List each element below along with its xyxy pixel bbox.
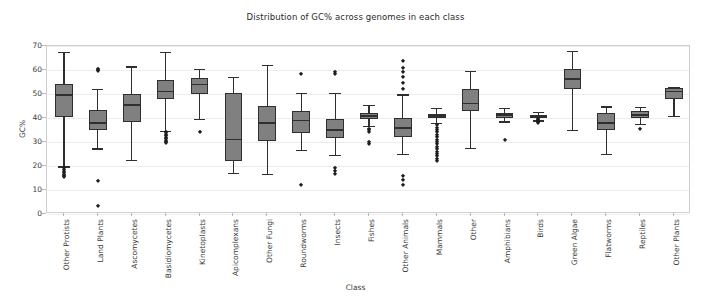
cap-upper [567, 51, 578, 52]
x-tick-mark [334, 213, 335, 216]
cap-upper [533, 112, 544, 113]
x-tick-label-other-protists: Other Protists [61, 219, 70, 270]
median-line [55, 94, 73, 96]
median-line [462, 103, 480, 105]
whisker-lower [233, 161, 234, 173]
y-tick-label-0: 0 [2, 209, 42, 218]
boxplot-insects[interactable] [318, 46, 352, 214]
boxplot-other-protists[interactable] [47, 46, 81, 214]
median-line [225, 139, 243, 141]
x-tick-mark [605, 213, 606, 216]
boxplot-ascomycetes[interactable] [115, 46, 149, 214]
x-tick-label-land-plants: Land Plants [95, 219, 104, 262]
boxplot-land-plants[interactable] [81, 46, 115, 214]
boxplot-amphibians[interactable] [488, 46, 522, 214]
whisker-upper [131, 66, 132, 93]
x-tick-mark [199, 213, 200, 216]
box-iqr[interactable] [55, 84, 73, 116]
box-iqr[interactable] [462, 89, 480, 111]
cap-upper [363, 105, 374, 106]
x-tick-label-green-algae: Green Algae [570, 219, 579, 265]
outlier-point [96, 179, 101, 184]
boxplot-birds[interactable] [522, 46, 556, 214]
median-line [496, 114, 514, 116]
box-iqr[interactable] [292, 111, 310, 133]
box-iqr[interactable] [225, 93, 243, 160]
chart-title: Distribution of GC% across genomes in ea… [0, 12, 711, 22]
y-tick-mark [42, 117, 46, 118]
median-line [360, 115, 378, 117]
outlier-point [435, 159, 440, 164]
cap-upper [296, 93, 307, 94]
outlier-point [299, 182, 304, 187]
boxplot-reptiles[interactable] [623, 46, 657, 214]
y-tick-label-30: 30 [2, 137, 42, 146]
median-line [157, 91, 175, 93]
outlier-point [502, 137, 507, 142]
y-tick-label-10: 10 [2, 185, 42, 194]
whisker-lower [63, 117, 64, 167]
boxplot-basidiomycetes[interactable] [149, 46, 183, 214]
median-line [564, 78, 582, 80]
cap-lower [329, 155, 340, 156]
boxplot-kinetoplasts[interactable] [183, 46, 217, 214]
x-tick-mark [673, 213, 674, 216]
outlier-point [367, 142, 372, 147]
median-line [292, 120, 310, 122]
cap-upper [228, 77, 239, 78]
x-tick-label-roundworms: Roundworms [299, 219, 308, 268]
cap-lower [465, 148, 476, 149]
boxplot-other-plants[interactable] [657, 46, 691, 214]
whisker-lower [572, 89, 573, 130]
cap-lower [601, 154, 612, 155]
whisker-lower [606, 130, 607, 154]
boxplot-other[interactable] [454, 46, 488, 214]
x-tick-label-reptiles: Reptiles [638, 219, 647, 249]
boxplot-other-fungi[interactable] [250, 46, 284, 214]
boxplot-roundworms[interactable] [284, 46, 318, 214]
median-line [258, 122, 276, 124]
cap-lower [92, 148, 103, 149]
y-tick-mark [42, 93, 46, 94]
outlier-point [62, 175, 67, 180]
boxplot-fishes[interactable] [352, 46, 386, 214]
cap-upper [601, 106, 612, 107]
cap-upper [194, 69, 205, 70]
median-line [631, 114, 649, 116]
cap-lower [126, 160, 137, 161]
x-tick-mark [537, 213, 538, 216]
y-tick-label-40: 40 [2, 113, 42, 122]
whisker-upper [301, 93, 302, 111]
x-tick-label-amphibians: Amphibians [502, 219, 511, 263]
x-tick-mark [571, 213, 572, 216]
x-tick-mark [131, 213, 132, 216]
whisker-lower [673, 99, 674, 116]
x-tick-label-other-fungi: Other Fungi [265, 219, 274, 263]
whisker-lower [131, 122, 132, 161]
x-tick-label-insects: Insects [333, 219, 342, 245]
x-tick-label-basidiomycetes: Basidiomycetes [163, 219, 172, 278]
boxplot-other-animals[interactable] [386, 46, 420, 214]
box-iqr[interactable] [191, 78, 209, 94]
cap-upper [465, 71, 476, 72]
x-tick-label-fishes: Fishes [367, 219, 376, 242]
x-tick-label-mammals: Mammals [434, 219, 443, 255]
cap-upper [126, 66, 137, 67]
boxplot-mammals[interactable] [420, 46, 454, 214]
whisker-lower [165, 99, 166, 131]
boxplot-green-algae[interactable] [555, 46, 589, 214]
outlier-point [163, 141, 168, 146]
cap-upper [329, 93, 340, 94]
x-tick-mark [436, 213, 437, 216]
boxplot-flatworms[interactable] [589, 46, 623, 214]
cap-upper [262, 65, 273, 66]
box-iqr[interactable] [157, 80, 175, 100]
x-tick-label-flatworms: Flatworms [604, 219, 613, 258]
whisker-lower [402, 137, 403, 154]
cap-lower [296, 150, 307, 151]
box-iqr[interactable] [123, 94, 141, 122]
cap-lower [499, 121, 510, 122]
boxplot-apicomplexans[interactable] [216, 46, 250, 214]
cap-lower [397, 154, 408, 155]
box-iqr[interactable] [89, 110, 107, 130]
